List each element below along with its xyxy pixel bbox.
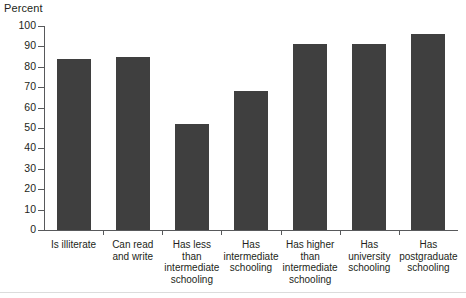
- y-axis-tick-label: 40: [6, 142, 36, 153]
- bar: [57, 59, 91, 230]
- y-axis-tick-label: 20: [6, 183, 36, 194]
- x-axis-tick: [340, 231, 341, 235]
- y-axis-tick: [38, 26, 44, 27]
- y-axis-tick: [38, 128, 44, 129]
- x-axis-tick: [221, 231, 222, 235]
- y-axis-tick-label: 80: [6, 61, 36, 72]
- y-axis-tick-label: 100: [6, 20, 36, 31]
- y-axis-tick: [38, 189, 44, 190]
- y-axis-tick-label: 90: [6, 40, 36, 51]
- y-axis-tick: [38, 210, 44, 211]
- y-axis-tick-label: 50: [6, 122, 36, 133]
- x-axis-tick: [281, 231, 282, 235]
- category-label: Can read and write: [103, 239, 162, 262]
- y-axis-tick-label: 30: [6, 163, 36, 174]
- y-axis-tick: [38, 87, 44, 88]
- chart-title: Percent: [4, 2, 43, 15]
- y-axis-tick: [38, 108, 44, 109]
- bar: [116, 57, 150, 230]
- bar: [293, 44, 327, 230]
- bar: [234, 91, 268, 230]
- y-axis-tick-label: 60: [6, 102, 36, 113]
- y-axis-tick: [38, 148, 44, 149]
- y-axis-tick-label: 70: [6, 81, 36, 92]
- y-axis-tick: [38, 169, 44, 170]
- category-label: Is illiterate: [44, 239, 103, 251]
- category-label: Has university schooling: [340, 239, 399, 274]
- y-axis-line: [44, 26, 45, 231]
- x-axis-tick: [103, 231, 104, 235]
- x-axis-tick: [399, 231, 400, 235]
- y-axis-tick: [38, 46, 44, 47]
- category-label: Has higher than intermediate schooling: [281, 239, 340, 285]
- category-label: Has intermediate schooling: [221, 239, 280, 274]
- bar: [175, 124, 209, 230]
- bar: [352, 44, 386, 230]
- bar: [411, 34, 445, 230]
- y-axis-tick-label: 10: [6, 204, 36, 215]
- category-label: Has postgraduate schooling: [399, 239, 458, 274]
- y-axis-tick-label: 0: [6, 224, 36, 235]
- bar-chart: Percent 0102030405060708090100 Is illite…: [0, 0, 466, 298]
- page-edge-artifact: [0, 292, 466, 293]
- y-axis-tick: [38, 230, 44, 231]
- category-label: Has less than intermediate schooling: [162, 239, 221, 285]
- y-axis-tick: [38, 67, 44, 68]
- x-axis-line: [44, 230, 458, 231]
- x-axis-tick: [162, 231, 163, 235]
